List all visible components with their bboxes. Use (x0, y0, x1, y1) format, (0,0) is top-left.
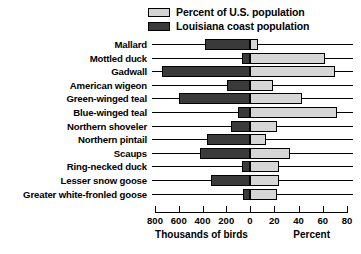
bar-louisiana-coast-population (162, 66, 250, 77)
bar-percent-us-population (250, 39, 258, 50)
chart-row (0, 38, 361, 52)
axis-tick-label-left-600: 600 (171, 215, 187, 226)
chart-row (0, 147, 361, 161)
plot-area (0, 38, 361, 203)
chart-row (0, 106, 361, 120)
bar-louisiana-coast-population (205, 39, 250, 50)
axis-tick (155, 206, 156, 213)
axis-tick (226, 206, 227, 213)
chart-row (0, 133, 361, 147)
chart-row (0, 65, 361, 79)
axis-tick (203, 206, 204, 213)
bar-percent-us-population (250, 148, 290, 159)
axis-line (155, 212, 347, 213)
chart-row (0, 79, 361, 93)
bar-percent-us-population (250, 134, 266, 145)
bar-louisiana-coast-population (179, 93, 250, 104)
axis-tick-label-right-80: 80 (342, 215, 353, 226)
legend-swatch-dark-gray (148, 22, 170, 31)
bar-louisiana-coast-population (238, 107, 250, 118)
axis-tick-label-left-0: 0 (247, 215, 252, 226)
bar-louisiana-coast-population (242, 53, 250, 64)
chart-row (0, 92, 361, 106)
legend-swatch-light-gray (148, 8, 170, 17)
chart-legend: Percent of U.S. population Louisiana coa… (148, 6, 358, 34)
axis-tick (250, 206, 251, 213)
bar-percent-us-population (250, 53, 325, 64)
axis-tick (274, 206, 275, 213)
bar-louisiana-coast-population (242, 161, 250, 172)
legend-item-percent-us-population: Percent of U.S. population (148, 6, 358, 19)
bar-percent-us-population (250, 161, 279, 172)
bar-percent-us-population (250, 107, 337, 118)
axis-title-thousands-of-birds: Thousands of birds (155, 229, 248, 240)
bar-percent-us-population (250, 175, 279, 186)
axis-tick-label-left-800: 800 (147, 215, 163, 226)
axis-tick-label-right-60: 60 (317, 215, 328, 226)
bar-louisiana-coast-population (207, 134, 250, 145)
value-axis: 800600400200020406080Thousands of birdsP… (0, 205, 361, 254)
axis-tick-label-left-200: 200 (218, 215, 234, 226)
axis-tick (347, 206, 348, 213)
chart-row (0, 160, 361, 174)
axis-tick (323, 206, 324, 213)
bar-louisiana-coast-population (227, 80, 250, 91)
bar-louisiana-coast-population (243, 189, 250, 200)
bar-percent-us-population (250, 66, 335, 77)
axis-tick (299, 206, 300, 213)
chart-row (0, 52, 361, 66)
bar-louisiana-coast-population (231, 121, 250, 132)
chart-row (0, 174, 361, 188)
bar-louisiana-coast-population (211, 175, 250, 186)
chart-container: Percent of U.S. population Louisiana coa… (0, 0, 361, 254)
axis-tick-label-right-20: 20 (269, 215, 280, 226)
legend-item-louisiana-coast-population: Louisiana coast population (148, 20, 358, 33)
bar-percent-us-population (250, 80, 273, 91)
bar-louisiana-coast-population (200, 148, 250, 159)
bar-percent-us-population (250, 93, 302, 104)
legend-label-louisiana-coast-population: Louisiana coast population (176, 21, 309, 32)
axis-title-percent: Percent (293, 229, 330, 240)
bar-percent-us-population (250, 121, 277, 132)
axis-tick-label-left-400: 400 (195, 215, 211, 226)
axis-tick-label-right-40: 40 (293, 215, 304, 226)
legend-label-percent-us-population: Percent of U.S. population (176, 7, 305, 18)
bar-percent-us-population (250, 189, 277, 200)
chart-row (0, 188, 361, 202)
chart-row (0, 120, 361, 134)
axis-tick (179, 206, 180, 213)
